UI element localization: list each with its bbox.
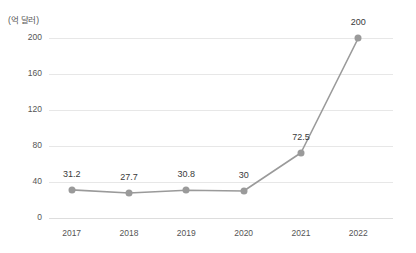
- x-axis-tick-label: 2020: [214, 228, 274, 238]
- series-line-layer: [0, 0, 416, 253]
- data-point-marker: [68, 186, 75, 193]
- data-point-marker: [355, 35, 362, 42]
- data-point-label: 27.7: [99, 172, 159, 182]
- x-axis-tick-label: 2017: [42, 228, 102, 238]
- data-point-marker: [126, 190, 133, 197]
- x-axis-tick-label: 2019: [156, 228, 216, 238]
- data-point-label: 200: [328, 17, 388, 27]
- x-axis-tick-label: 2021: [271, 228, 331, 238]
- data-point-marker: [183, 187, 190, 194]
- data-point-marker: [298, 149, 305, 156]
- data-point-label: 31.2: [42, 169, 102, 179]
- x-axis-tick-label: 2018: [99, 228, 159, 238]
- data-point-label: 30.8: [156, 169, 216, 179]
- x-axis-tick-label: 2022: [328, 228, 388, 238]
- line-chart: (억 달러) 04080120160200 31.227.730.83072.5…: [0, 0, 416, 253]
- data-point-label: 72.5: [271, 132, 331, 142]
- data-point-label: 30: [214, 170, 274, 180]
- data-point-marker: [240, 188, 247, 195]
